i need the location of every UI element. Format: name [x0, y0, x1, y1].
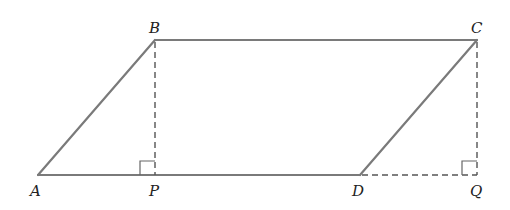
segment-ab: [38, 40, 155, 175]
auxiliary-lines: [155, 42, 477, 175]
label-point-d: D: [351, 182, 364, 200]
parallelogram-sides: [38, 40, 477, 175]
label-point-q: Q: [470, 182, 482, 200]
label-point-p: P: [148, 182, 160, 200]
parallelogram-diagram: B C A P D Q: [0, 0, 510, 210]
right-angle-markers: [140, 161, 477, 175]
right-angle-marker-q: [462, 161, 477, 175]
segment-cd: [360, 40, 477, 175]
label-point-b: B: [148, 19, 160, 37]
label-point-a: A: [28, 182, 41, 200]
label-point-c: C: [471, 19, 483, 37]
right-angle-marker-p: [140, 161, 155, 175]
